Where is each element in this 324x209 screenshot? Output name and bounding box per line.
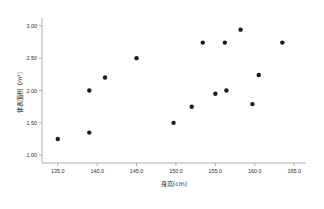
plot-canvas: 1.001.502.002.503.00 135.0140.0145.0150.…: [0, 0, 324, 209]
x-tick-label: 155.0: [209, 168, 223, 174]
y-tick-label: 3.00: [27, 23, 38, 29]
data-point: [250, 102, 254, 106]
data-point: [238, 27, 242, 31]
x-axis: 135.0140.0145.0150.0155.0160.0165.0: [42, 163, 306, 174]
y-tick-label: 2.50: [27, 55, 38, 61]
x-tick-label: 160.0: [248, 168, 262, 174]
data-point: [224, 88, 228, 92]
data-point: [201, 40, 205, 44]
data-point: [134, 56, 138, 60]
x-tick-label: 165.0: [287, 168, 301, 174]
x-tick-label: 140.0: [90, 168, 104, 174]
data-point: [190, 104, 194, 108]
y-tick-label: 1.50: [27, 120, 38, 126]
y-tick-label: 1.00: [27, 152, 38, 158]
data-point: [87, 130, 91, 134]
y-axis-title: 体表面积（m²）: [16, 68, 24, 113]
x-tick-label: 150.0: [169, 168, 183, 174]
data-point: [56, 137, 60, 141]
x-axis-title: 身高(cm): [161, 180, 187, 188]
data-point: [87, 88, 91, 92]
x-tick-label: 135.0: [51, 168, 65, 174]
data-point: [103, 75, 107, 79]
data-point: [223, 40, 227, 44]
x-tick-label: 145.0: [130, 168, 144, 174]
data-point: [280, 40, 284, 44]
data-point: [257, 73, 261, 77]
y-tick-label: 2.00: [27, 88, 38, 94]
data-points-layer: [56, 27, 285, 141]
y-axis: 1.001.502.002.503.00: [27, 18, 43, 163]
scatter-plot-figure: 1.001.502.002.503.00 135.0140.0145.0150.…: [0, 0, 324, 209]
data-point: [171, 121, 175, 125]
data-point: [213, 92, 217, 96]
